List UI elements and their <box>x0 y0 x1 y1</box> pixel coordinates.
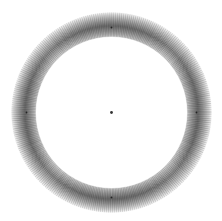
ring-figure <box>0 0 222 221</box>
cardinal-mark-right <box>196 112 198 114</box>
cardinal-mark-bottom <box>111 197 113 199</box>
cardinal-mark-left <box>26 112 28 114</box>
cardinal-mark-top <box>111 27 113 29</box>
center-dot <box>110 111 113 114</box>
